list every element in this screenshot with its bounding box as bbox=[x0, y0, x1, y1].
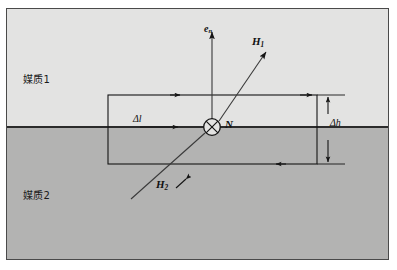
delta-h-label: Δh bbox=[330, 117, 341, 128]
h2-subscript: 2 bbox=[165, 184, 169, 192]
delta-l-label: Δl bbox=[133, 113, 142, 124]
h1-label: H1 bbox=[252, 35, 264, 49]
h1-symbol: H bbox=[252, 35, 261, 47]
h2-label: H2 bbox=[156, 178, 168, 192]
h1-field-arrow bbox=[219, 52, 266, 121]
h2-symbol: H bbox=[156, 178, 165, 190]
diagram-vector-overlay bbox=[0, 0, 397, 270]
current-into-page-symbol bbox=[204, 119, 221, 136]
h1-subscript: 1 bbox=[261, 41, 265, 49]
magnetic-boundary-condition-figure: 媒质1 媒质2 bbox=[0, 0, 397, 270]
h2-direction-arrow bbox=[176, 179, 186, 188]
en-subscript: n bbox=[208, 27, 212, 34]
surface-normal-label: N bbox=[225, 118, 233, 130]
en-label: en bbox=[204, 23, 212, 34]
